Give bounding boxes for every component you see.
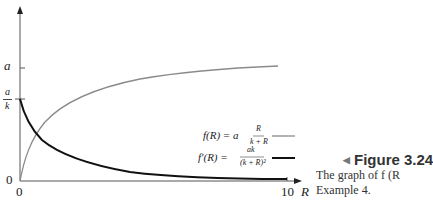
caption-line-2: Example 4. — [316, 183, 400, 198]
x-label-zero: 0 — [16, 184, 23, 200]
figure-caption-title: ◀Figure 3.24 — [343, 151, 433, 168]
series-fprime-line — [20, 99, 287, 179]
y-label-zero: 0 — [6, 172, 13, 188]
figure-label: Figure 3.24 — [354, 151, 433, 168]
y-label-a: a — [4, 58, 11, 74]
x-label-ten: 10 — [281, 184, 294, 200]
legend-fp-lhs: f′(R) = — [198, 151, 228, 163]
x-axis-var: R — [301, 184, 309, 200]
caption-marker-icon: ◀ — [343, 155, 350, 165]
caption-line-1: The graph of f (R — [316, 168, 400, 183]
y-label-ak-num: a — [5, 86, 10, 97]
figure-caption-text: The graph of f (R Example 4. — [316, 168, 400, 198]
legend-f-num: R — [256, 124, 261, 133]
legend-f-lhs: f(R) = a — [203, 129, 239, 141]
y-label-ak-den: k — [5, 100, 9, 111]
legend-fp-den: (k + R)² — [240, 158, 266, 167]
y-axis-arrow-icon — [17, 6, 23, 14]
legend-fp-num: ak — [247, 145, 255, 154]
